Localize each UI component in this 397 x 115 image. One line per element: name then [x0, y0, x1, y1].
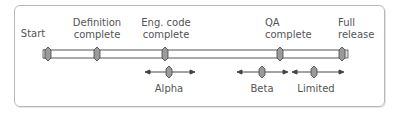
milestone-label-full-release-line1: Full [338, 17, 374, 29]
milestone-label-full-release-line2: release [338, 29, 374, 41]
milestone-marker-eng-code [162, 47, 168, 61]
milestone-label-eng-code-line1: Eng. code [141, 17, 190, 29]
milestone-marker-definition [94, 47, 100, 61]
milestone-label-eng-code-line2: complete [141, 29, 190, 41]
milestone-label-definition-line1: Definition [73, 17, 121, 29]
milestone-label-qa-line1: QA [265, 17, 312, 29]
milestone-marker-start [45, 47, 51, 61]
milestone-label-full-release: Full release [338, 17, 374, 41]
phase-arrow-limited [292, 66, 344, 78]
phase-arrow-alpha [145, 66, 195, 78]
milestone-marker-qa [277, 47, 283, 61]
phase-label-limited: Limited [297, 83, 334, 95]
milestone-label-start: Start [21, 28, 45, 40]
timeline-bar [44, 50, 344, 58]
milestone-label-eng-code: Eng. code complete [141, 17, 190, 41]
phase-label-beta: Beta [250, 83, 273, 95]
milestone-label-qa-line2: complete [265, 29, 312, 41]
phase-label-alpha: Alpha [155, 83, 183, 95]
milestone-label-definition-line2: complete [73, 29, 121, 41]
milestone-marker-full-release [339, 47, 345, 61]
phase-arrow-beta [237, 66, 288, 78]
milestone-label-start-text: Start [21, 28, 45, 40]
milestone-label-qa: QA complete [265, 17, 312, 41]
milestone-label-definition: Definition complete [73, 17, 121, 41]
